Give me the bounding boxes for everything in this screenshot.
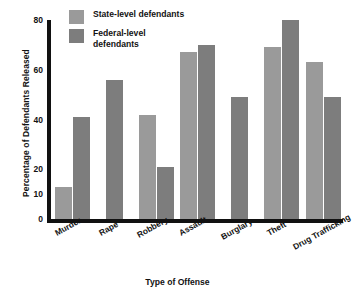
bar	[306, 62, 323, 219]
bar	[180, 52, 197, 219]
bar	[198, 45, 215, 219]
x-axis-title: Type of Offense	[0, 277, 355, 287]
x-axis-tick-labels: MurderRapeRobberyAssaultBurglaryTheftDru…	[47, 223, 347, 275]
y-axis-tick-labels: 80604020100	[13, 20, 43, 223]
y-tick-label: 40	[17, 116, 43, 125]
bar	[73, 117, 90, 219]
bar	[264, 47, 281, 219]
bar	[106, 80, 123, 219]
legend: State-level defendantsFederal-level defe…	[69, 9, 199, 53]
legend-label: State-level defendants	[93, 9, 184, 20]
legend-item[interactable]: Federal-level defendants	[69, 28, 199, 49]
bar	[139, 115, 156, 219]
bar-group	[218, 20, 260, 219]
y-tick-label: 0	[17, 215, 43, 224]
y-tick-label: 60	[17, 66, 43, 75]
y-tick-label: 80	[17, 16, 43, 25]
bar-chart: Percentage of Defendants Released 806040…	[0, 0, 355, 295]
bar-group	[260, 20, 302, 219]
y-tick-label: 20	[17, 165, 43, 174]
bar	[324, 97, 341, 219]
bar	[282, 20, 299, 219]
legend-swatch	[69, 10, 84, 24]
bar	[55, 187, 72, 219]
legend-item[interactable]: State-level defendants	[69, 9, 199, 24]
bar	[157, 167, 174, 219]
y-tick-label: 10	[17, 190, 43, 199]
legend-swatch	[69, 29, 84, 43]
bar	[231, 97, 248, 219]
bar-group	[301, 20, 343, 219]
legend-label: Federal-level defendants	[93, 28, 188, 49]
